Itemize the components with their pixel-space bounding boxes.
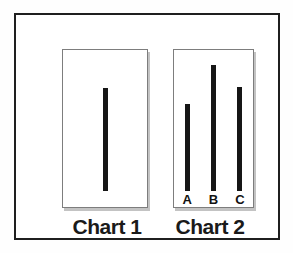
bar (103, 88, 108, 191)
bar-column: A (182, 104, 191, 205)
bar-label: A (182, 195, 191, 205)
chart1-panel (62, 49, 148, 208)
bar-column: B (209, 65, 218, 205)
bar-column: C (235, 87, 244, 205)
chart2-panel: ABC (173, 49, 254, 208)
bar-column (103, 88, 108, 205)
chart1-bars (63, 88, 147, 205)
chart2-caption: Chart 2 (155, 215, 265, 239)
bar (211, 65, 216, 191)
bar-label: C (235, 195, 244, 205)
chart1-caption: Chart 1 (52, 215, 162, 239)
bar (185, 104, 190, 191)
bar (237, 87, 242, 191)
bar-label: B (209, 195, 218, 205)
figure: ABC Chart 1 Chart 2 (0, 0, 293, 253)
figure-frame: ABC Chart 1 Chart 2 (14, 13, 280, 240)
chart2-bars: ABC (174, 65, 253, 205)
